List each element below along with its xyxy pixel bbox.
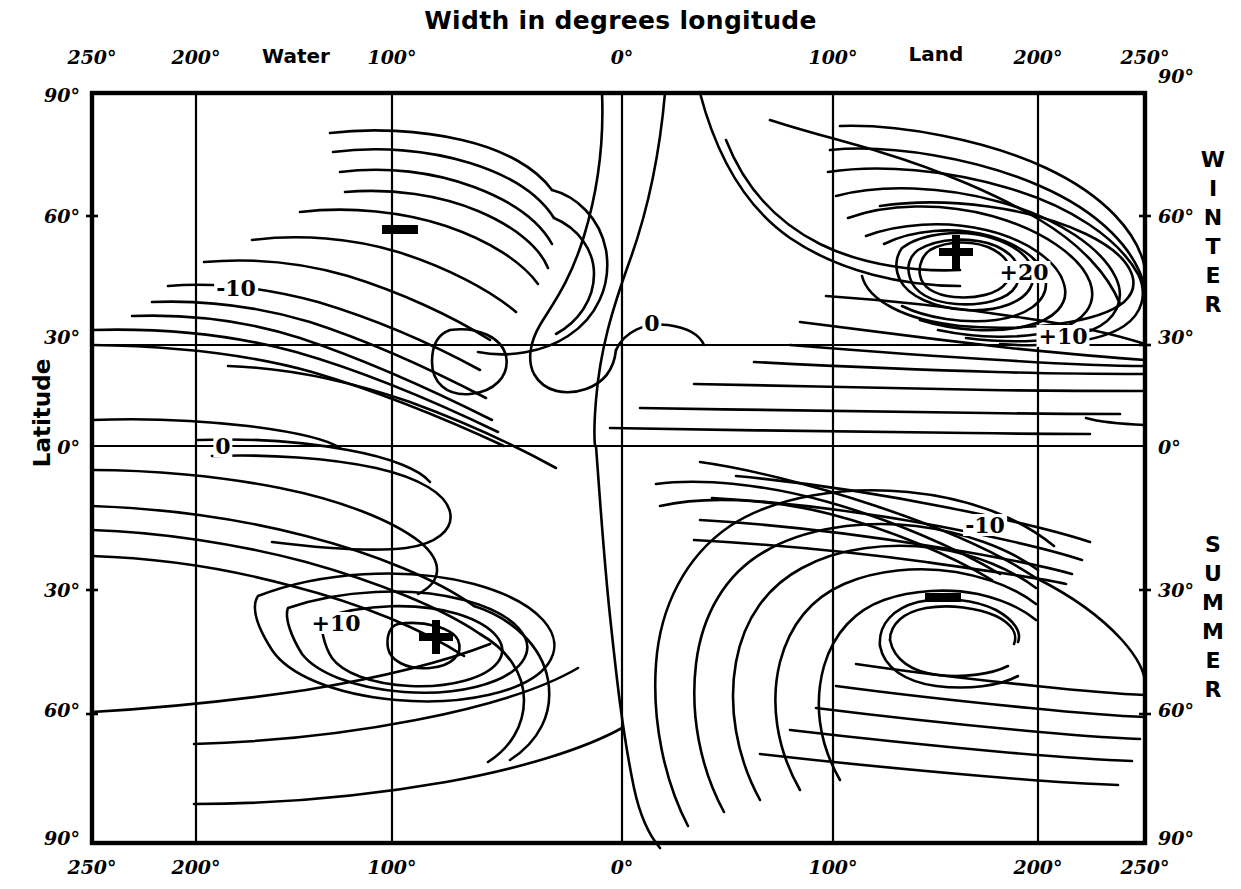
contour-label-winter-zero: 0: [642, 312, 661, 334]
contour-label-summer-water-high: +10: [309, 612, 362, 634]
contour-winter-water-9: [152, 302, 486, 398]
contour-summer-land-right-wrap: [1036, 578, 1145, 684]
contour-winter-band-7: [610, 428, 1090, 434]
contour-label-winter-land-high: +20: [997, 261, 1050, 283]
contours-summer: [92, 418, 1145, 848]
contour-label-winter-land-mid: +10: [1036, 325, 1089, 347]
contour-summer-land-9: [890, 606, 1015, 644]
contour-right-arc-2: [1086, 418, 1145, 425]
contour-winter-water-6: [252, 237, 516, 312]
contour-summer-zero: [596, 446, 660, 848]
contour-winter-land-4: [828, 169, 1143, 346]
contour-winter-water-4: [345, 191, 548, 268]
contour-label-summer-land-low: -10: [963, 514, 1007, 536]
contour-plot-area: [0, 0, 1241, 889]
contour-winter-band-5: [694, 384, 1145, 391]
contour-label-winter-water-low: -10: [214, 277, 258, 299]
contour-winter-land-2: [840, 126, 1145, 268]
contour-summer-water-lower-3: [194, 728, 622, 804]
contour-winter-center-oval: [432, 329, 507, 394]
contour-winter-water-2: [333, 149, 554, 218]
contour-label-summer-water-zero: 0: [213, 435, 232, 457]
contour-winter-band-6: [640, 408, 1120, 414]
contour-winter-water-3: [340, 170, 552, 244]
contour-winter-zero-right: [594, 93, 665, 446]
contour-summer-band-9: [760, 754, 1118, 785]
contour-summer-land-6: [775, 569, 1036, 790]
contour-winter-water-wrap-1: [478, 190, 607, 354]
contour-winter-water-1: [330, 130, 552, 190]
contour-figure: Width in degrees longitude Latitude 250°…: [0, 0, 1241, 889]
